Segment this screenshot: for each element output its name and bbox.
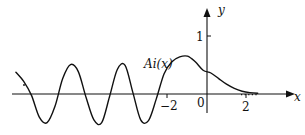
x-axis-label: x (294, 90, 301, 104)
ai-curve (16, 56, 258, 125)
series-label-ai: Ai(x) (143, 57, 173, 71)
y-tick-label-1: 1 (196, 30, 204, 44)
y-axis-arrow-icon (204, 8, 211, 17)
x-tick-label-neg2: −2 (160, 99, 178, 113)
x-tick-label-0: 0 (197, 96, 205, 110)
x-tick-label-2: 2 (242, 100, 250, 114)
airy-function-chart: y x 1 −2 0 2 Ai(x) (0, 0, 305, 135)
start-dot (23, 84, 25, 86)
y-axis-label: y (217, 3, 225, 17)
